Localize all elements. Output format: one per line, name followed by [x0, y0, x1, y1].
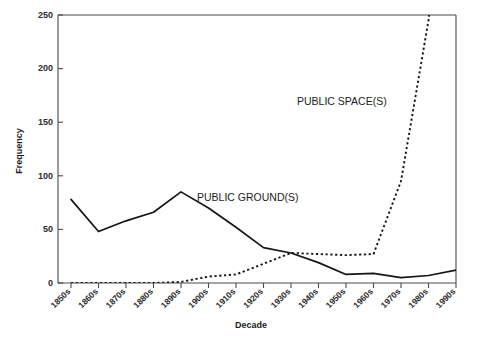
y-tick-label-250: 250 — [38, 10, 53, 20]
x-axis-title: Decade — [235, 320, 267, 330]
y-tick-label-50: 50 — [43, 224, 53, 234]
y-tick-label-100: 100 — [38, 171, 53, 181]
y-tick-label-200: 200 — [38, 63, 53, 73]
chart-background — [0, 0, 481, 342]
frequency-by-decade-line-chart: 0 50 100 150 200 250 1850s — [0, 0, 481, 342]
series-annotation-public-ground: PUBLIC GROUND(S) — [197, 191, 299, 203]
y-axis-title: Frequency — [14, 128, 24, 174]
y-tick-label-0: 0 — [48, 278, 53, 288]
y-tick-label-150: 150 — [38, 117, 53, 127]
chart-container: 0 50 100 150 200 250 1850s — [0, 0, 481, 342]
series-annotation-public-space: PUBLIC SPACE(S) — [297, 95, 387, 107]
